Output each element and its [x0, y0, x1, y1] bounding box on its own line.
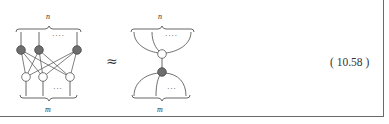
white-node — [66, 73, 75, 82]
right-diagram: n ···· ··· m — [131, 12, 194, 114]
equation-number: ( 10.58 ) — [330, 56, 369, 68]
bottom-brace — [20, 95, 77, 101]
dark-node — [158, 68, 167, 77]
white-node — [158, 50, 167, 59]
bottom-ellipsis: ··· — [167, 84, 177, 93]
top-brace — [131, 26, 194, 32]
dark-node — [17, 46, 26, 55]
bottom-label-m: m — [45, 105, 51, 114]
bottom-brace — [132, 95, 190, 101]
white-node — [39, 73, 48, 82]
white-node — [22, 73, 31, 82]
bottom-legs — [134, 73, 186, 96]
dark-node — [35, 46, 44, 55]
top-ellipsis: ···· — [52, 31, 65, 40]
approx-symbol: ≈ — [106, 53, 118, 69]
top-label-n: n — [158, 12, 162, 21]
bottom-legs — [26, 81, 70, 96]
top-label-n: n — [46, 12, 50, 21]
dark-node — [73, 46, 82, 55]
white-nodes — [22, 73, 75, 82]
bottom-label-m: m — [157, 105, 163, 114]
left-diagram: n ···· — [16, 12, 81, 114]
bottom-ellipsis: ··· — [53, 84, 63, 93]
top-legs — [21, 32, 77, 46]
top-brace — [16, 26, 81, 32]
top-ellipsis: ···· — [165, 31, 178, 40]
